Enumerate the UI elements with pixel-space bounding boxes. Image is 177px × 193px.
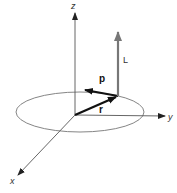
x-axis [18, 115, 75, 175]
diagram-svg: z y x p r L [0, 0, 177, 193]
z-axis-label: z [70, 1, 76, 11]
p-vector [85, 90, 118, 96]
r-vector [75, 97, 116, 115]
y-axis [75, 115, 165, 116]
r-vector-label: r [99, 104, 103, 115]
L-vector-label: L [123, 55, 128, 65]
p-vector-label: p [99, 73, 105, 84]
y-axis-label: y [167, 112, 173, 122]
x-axis-label: x [9, 176, 15, 186]
angular-momentum-diagram: z y x p r L [0, 0, 177, 193]
